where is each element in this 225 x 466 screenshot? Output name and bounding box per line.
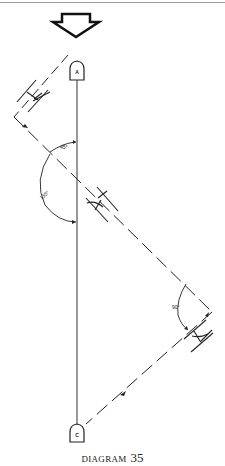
mark-a-label: A: [75, 69, 79, 75]
caption-word: DIAGRAM: [81, 454, 126, 464]
diagram-caption: DIAGRAM 35: [0, 448, 225, 466]
mark-c-icon: C: [70, 424, 84, 442]
angle-90-marker: 90°: [172, 284, 188, 330]
rowing-boat-icon: [184, 320, 213, 352]
course-leg-1: [14, 55, 68, 117]
angle-45-label: 45°: [60, 144, 68, 150]
angle-135-marker: 135°: [38, 154, 76, 224]
angle-45-marker: 45°: [50, 140, 76, 152]
course-leg-2: [14, 117, 212, 312]
mark-a-icon: A: [70, 61, 84, 80]
caption-number: 35: [131, 450, 144, 465]
direction-arrowhead-icon: [205, 312, 209, 317]
course-leg-3: [86, 312, 212, 424]
angle-135-label: 135°: [38, 189, 50, 200]
mark-c-label: C: [75, 432, 79, 438]
angle-90-label: 90°: [172, 304, 180, 310]
wind-arrow-icon: [53, 14, 99, 37]
course-diagram: A C 45°: [0, 0, 225, 466]
